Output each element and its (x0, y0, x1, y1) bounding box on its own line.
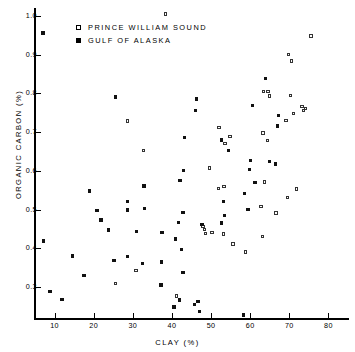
data-point-prince-william-sound (266, 90, 269, 93)
data-point-prince-william-sound (302, 109, 305, 112)
data-point-prince-william-sound (217, 126, 220, 129)
data-point-gulf-of-alaska (112, 259, 115, 262)
data-point-gulf-of-alaska (276, 124, 279, 127)
caption-fragment (0, 348, 355, 352)
data-point-gulf-of-alaska (174, 237, 177, 240)
data-point-gulf-of-alaska (274, 162, 277, 165)
data-point-prince-william-sound (228, 135, 231, 138)
data-point-gulf-of-alaska (82, 274, 85, 277)
plot-data-area (35, 8, 348, 318)
data-point-gulf-of-alaska (177, 221, 180, 224)
data-point-gulf-of-alaska (220, 221, 223, 224)
data-point-prince-william-sound (261, 235, 264, 238)
data-point-prince-william-sound (204, 232, 207, 235)
data-point-gulf-of-alaska (249, 159, 252, 162)
data-point-gulf-of-alaska (172, 305, 175, 308)
data-point-prince-william-sound (274, 211, 277, 214)
data-point-gulf-of-alaska (248, 168, 251, 171)
data-point-prince-william-sound (290, 59, 293, 62)
data-point-gulf-of-alaska (107, 228, 110, 231)
data-point-gulf-of-alaska (48, 290, 51, 293)
data-point-gulf-of-alaska (193, 303, 196, 306)
data-point-prince-william-sound (223, 142, 226, 145)
data-point-gulf-of-alaska (159, 283, 162, 286)
data-point-gulf-of-alaska (196, 300, 199, 303)
data-point-gulf-of-alaska (242, 313, 245, 316)
x-axis-title: CLAY (%) (0, 338, 355, 347)
data-point-gulf-of-alaska (126, 255, 129, 258)
data-point-gulf-of-alaska (251, 104, 254, 107)
data-point-gulf-of-alaska (277, 114, 280, 117)
data-point-gulf-of-alaska (142, 184, 145, 187)
data-point-gulf-of-alaska (178, 179, 181, 182)
y-tick-label: 0.3 (7, 283, 37, 290)
data-point-gulf-of-alaska (182, 169, 185, 172)
data-point-gulf-of-alaska (246, 208, 249, 211)
x-tick-label: 60 (238, 322, 262, 329)
data-point-prince-william-sound (222, 185, 225, 188)
data-point-gulf-of-alaska (41, 31, 44, 34)
x-tick-label: 10 (43, 322, 67, 329)
x-tick-label: 70 (277, 322, 301, 329)
data-point-gulf-of-alaska (268, 160, 271, 163)
data-point-gulf-of-alaska (264, 77, 267, 80)
data-point-gulf-of-alaska (222, 200, 225, 203)
data-point-gulf-of-alaska (180, 248, 183, 251)
data-point-gulf-of-alaska (71, 254, 74, 257)
data-point-prince-william-sound (222, 232, 225, 235)
data-point-prince-william-sound (266, 139, 269, 142)
data-point-prince-william-sound (309, 34, 312, 37)
data-point-gulf-of-alaska (88, 189, 91, 192)
data-point-prince-william-sound (244, 250, 247, 253)
data-point-prince-william-sound (210, 231, 213, 234)
y-tick-label: 1.0 (7, 12, 37, 19)
data-point-gulf-of-alaska (143, 207, 146, 210)
data-point-prince-william-sound (287, 53, 290, 56)
data-point-gulf-of-alaska (99, 218, 102, 221)
data-point-prince-william-sound (289, 94, 292, 97)
x-tick-label: 30 (121, 322, 145, 329)
data-point-gulf-of-alaska (95, 209, 98, 212)
data-point-prince-william-sound (142, 149, 145, 152)
data-point-prince-william-sound (259, 205, 262, 208)
data-point-gulf-of-alaska (253, 181, 256, 184)
data-point-prince-william-sound (175, 294, 178, 297)
data-point-prince-william-sound (126, 119, 129, 122)
data-point-gulf-of-alaska (178, 298, 181, 301)
data-point-prince-william-sound (114, 282, 117, 285)
data-point-gulf-of-alaska (243, 192, 246, 195)
data-point-prince-william-sound (262, 90, 265, 93)
data-point-gulf-of-alaska (42, 239, 45, 242)
data-point-prince-william-sound (286, 196, 289, 199)
data-point-gulf-of-alaska (160, 231, 163, 234)
data-point-prince-william-sound (208, 166, 211, 169)
y-axis-title: ORGANIC CARBON (%) (14, 75, 23, 215)
x-tick-label: 50 (199, 322, 223, 329)
data-point-gulf-of-alaska (141, 262, 144, 265)
data-point-prince-william-sound (217, 187, 220, 190)
y-tick-label: 0.4 (7, 244, 37, 251)
x-tick-label: 80 (316, 322, 340, 329)
data-point-prince-william-sound (284, 119, 287, 122)
data-point-gulf-of-alaska (135, 230, 138, 233)
data-point-gulf-of-alaska (114, 95, 117, 98)
data-point-prince-william-sound (268, 94, 271, 97)
data-point-prince-william-sound (292, 112, 295, 115)
data-point-gulf-of-alaska (181, 211, 184, 214)
data-point-prince-william-sound (164, 12, 167, 15)
data-point-gulf-of-alaska (181, 271, 184, 274)
x-tick-label: 20 (82, 322, 106, 329)
data-point-gulf-of-alaska (183, 136, 186, 139)
scatter-plot-figure: 0.30.40.50.60.70.80.91.0 102030405060708… (0, 0, 355, 352)
data-point-gulf-of-alaska (60, 298, 63, 301)
data-point-gulf-of-alaska (160, 260, 163, 263)
data-point-gulf-of-alaska (198, 310, 201, 313)
data-point-prince-william-sound (295, 187, 298, 190)
data-point-prince-william-sound (134, 269, 137, 272)
data-point-gulf-of-alaska (220, 138, 223, 141)
x-tick-label: 40 (160, 322, 184, 329)
data-point-prince-william-sound (231, 242, 234, 245)
data-point-prince-william-sound (203, 228, 206, 231)
data-point-gulf-of-alaska (126, 208, 129, 211)
data-point-prince-william-sound (263, 180, 266, 183)
